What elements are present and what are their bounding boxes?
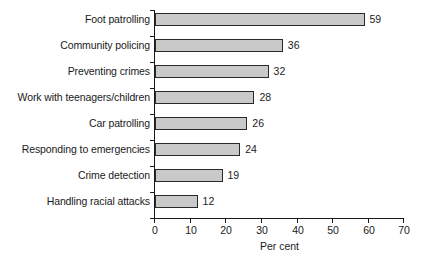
category-label: Car patrolling <box>89 117 150 129</box>
bar <box>155 195 198 208</box>
bar <box>155 91 254 104</box>
bar-value-label: 19 <box>228 169 240 182</box>
bar-chart: Foot patrolling Community policing Preve… <box>0 0 423 263</box>
value-axis-tick <box>225 219 226 223</box>
value-axis-tick <box>154 219 155 223</box>
value-axis-tick-label: 30 <box>247 224 277 236</box>
category-label: Foot patrolling <box>85 13 150 25</box>
value-axis-title-text: Per cent <box>260 240 299 252</box>
category-axis-tick <box>150 36 154 37</box>
value-axis-tick <box>190 219 191 223</box>
category-label: Handling racial attacks <box>47 195 150 207</box>
bar-value-label: 12 <box>203 195 215 208</box>
value-axis-title: Per cent <box>0 240 423 252</box>
value-axis-tick-label: 40 <box>283 224 313 236</box>
value-axis-tick-label: 50 <box>318 224 348 236</box>
plot-area: 59 36 32 28 26 24 19 12 <box>155 10 404 218</box>
value-axis-tick-label: 10 <box>176 224 206 236</box>
category-axis-tick <box>150 88 154 89</box>
bar <box>155 39 283 52</box>
value-axis-tick-label: 60 <box>354 224 384 236</box>
category-axis-tick <box>150 62 154 63</box>
value-axis-tick <box>332 219 333 223</box>
category-axis-tick <box>150 114 154 115</box>
value-axis-tick-label: 70 <box>389 224 419 236</box>
category-axis-tick <box>150 166 154 167</box>
bar-value-label: 26 <box>252 117 264 130</box>
category-axis-tick <box>150 140 154 141</box>
bar-value-label: 59 <box>370 13 382 26</box>
bar <box>155 117 247 130</box>
value-axis-tick <box>403 219 404 223</box>
category-label: Crime detection <box>78 169 150 181</box>
bar <box>155 143 240 156</box>
value-axis-tick <box>368 219 369 223</box>
category-label: Community policing <box>60 39 150 51</box>
bar <box>155 13 365 26</box>
value-axis-tick-label: 0 <box>140 224 170 236</box>
bar-value-label: 24 <box>245 143 257 156</box>
value-axis-tick <box>297 219 298 223</box>
category-label: Responding to emergencies <box>22 143 150 155</box>
value-axis-tick <box>261 219 262 223</box>
bar-value-label: 32 <box>274 65 286 78</box>
bar <box>155 65 269 78</box>
bar <box>155 169 223 182</box>
category-axis-labels: Foot patrolling Community policing Preve… <box>0 0 150 263</box>
bar-value-label: 28 <box>259 91 271 104</box>
value-axis-line <box>154 218 404 219</box>
category-label: Preventing crimes <box>68 65 150 77</box>
bar-value-label: 36 <box>288 39 300 52</box>
category-label: Work with teenagers/children <box>18 91 150 103</box>
category-axis-tick <box>150 192 154 193</box>
value-axis-tick-label: 20 <box>211 224 241 236</box>
category-axis-tick <box>150 10 154 11</box>
